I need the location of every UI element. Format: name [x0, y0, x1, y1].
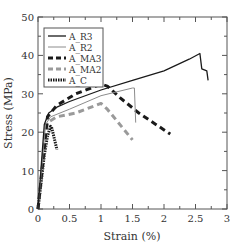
- y-tick-label: 10: [21, 166, 34, 177]
- y-tick-label: 50: [21, 12, 34, 23]
- x-tick-label: 1.5: [125, 213, 141, 224]
- legend-label: A_MA3: [68, 54, 102, 65]
- legend-label: A_C: [68, 76, 87, 87]
- series-a-ma2: [38, 103, 133, 209]
- legend-label: A_MA2: [68, 65, 101, 76]
- legend-label: A_R2: [68, 43, 93, 54]
- x-tick-label: 0.5: [62, 213, 78, 224]
- stress-strain-chart: 00.511.522.5301020304050 A_R3A_R2A_MA3A_…: [0, 0, 241, 251]
- y-tick-label: 0: [28, 204, 34, 215]
- x-tick-label: 0: [35, 213, 41, 224]
- series-a-r2: [38, 88, 136, 209]
- x-tick-label: 2.5: [188, 213, 204, 224]
- legend: A_R3A_R2A_MA3A_MA2A_C: [44, 28, 103, 87]
- y-tick-label: 40: [21, 50, 34, 61]
- x-tick-label: 1: [98, 213, 104, 224]
- y-tick-label: 30: [21, 89, 34, 100]
- x-tick-label: 3: [224, 213, 230, 224]
- legend-label: A_R3: [68, 32, 93, 43]
- y-axis-label: Stress (MPa): [2, 77, 15, 149]
- x-axis-label: Strain (%): [104, 230, 161, 243]
- x-tick-label: 2: [161, 213, 167, 224]
- y-tick-label: 20: [21, 127, 34, 138]
- series-a-ma3: [38, 84, 170, 209]
